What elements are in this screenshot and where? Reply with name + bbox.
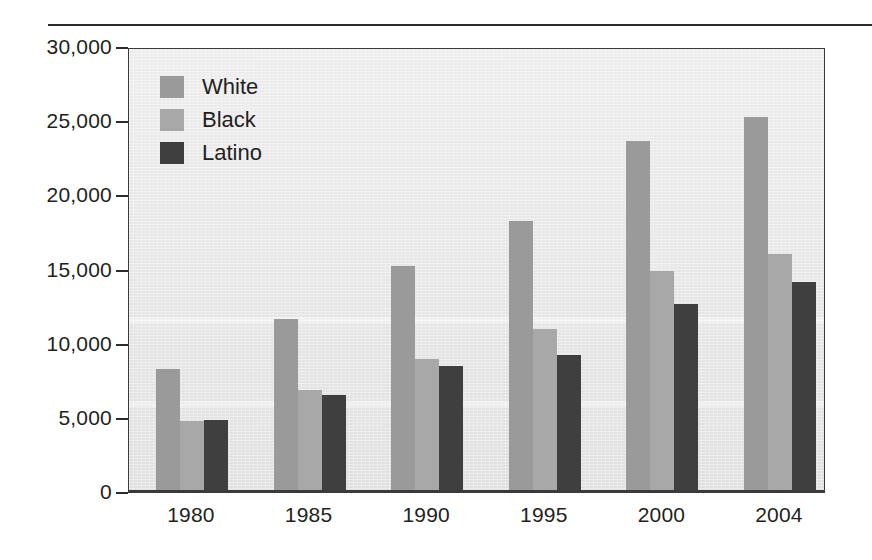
y-axis-tick — [116, 121, 128, 123]
x-axis-tick-label-1990: 1990 — [366, 503, 486, 527]
legend-swatch-black — [160, 109, 184, 131]
bar-latino-1990 — [439, 366, 463, 491]
bar-white-1980 — [156, 369, 180, 491]
bar-white-1990 — [391, 266, 415, 491]
x-axis-tick-label-1980: 1980 — [131, 503, 251, 527]
y-axis-tick-label: 5,000 — [4, 406, 112, 430]
bar-white-2004 — [744, 117, 768, 491]
bar-latino-2000 — [674, 304, 698, 491]
legend-swatch-white — [160, 76, 184, 98]
y-axis-tick — [116, 270, 128, 272]
bar-black-1985 — [298, 390, 322, 491]
bar-black-1980 — [180, 421, 204, 491]
bar-latino-2004 — [792, 282, 816, 491]
y-axis-tick-label: 20,000 — [4, 183, 112, 207]
chart-figure: 05,00010,00015,00020,00025,00030,000 198… — [0, 0, 872, 560]
bar-latino-1995 — [557, 355, 581, 491]
bar-white-1985 — [274, 319, 298, 491]
y-axis-tick — [116, 344, 128, 346]
y-axis-tick — [116, 195, 128, 197]
legend-item-black[interactable]: Black — [160, 103, 262, 136]
y-axis-tick — [116, 492, 128, 494]
bar-white-1995 — [509, 221, 533, 491]
x-axis-tick-label-1985: 1985 — [249, 503, 369, 527]
bar-black-1990 — [415, 359, 439, 491]
y-axis-tick-label: 25,000 — [4, 109, 112, 133]
y-axis-tick-label: 10,000 — [4, 332, 112, 356]
chart-legend: WhiteBlackLatino — [160, 70, 262, 169]
y-axis-tick — [116, 418, 128, 420]
x-axis-tick-label-1995: 1995 — [484, 503, 604, 527]
bar-black-2004 — [768, 254, 792, 491]
legend-swatch-latino — [160, 142, 184, 164]
bar-latino-1985 — [322, 395, 346, 491]
legend-label-black: Black — [202, 109, 256, 131]
bar-white-2000 — [626, 141, 650, 491]
y-axis-tick-label: 30,000 — [4, 35, 112, 59]
legend-label-latino: Latino — [202, 142, 262, 164]
y-axis-tick-label: 15,000 — [4, 258, 112, 282]
legend-item-latino[interactable]: Latino — [160, 136, 262, 169]
bar-latino-1980 — [204, 420, 228, 491]
x-axis-baseline — [129, 490, 824, 492]
legend-item-white[interactable]: White — [160, 70, 262, 103]
y-axis-tick-label: 0 — [4, 480, 112, 504]
x-axis-tick-label-2000: 2000 — [601, 503, 721, 527]
top-divider-rule — [48, 24, 872, 26]
y-axis-tick — [116, 47, 128, 49]
x-axis-tick-label-2004: 2004 — [719, 503, 839, 527]
bar-black-1995 — [533, 329, 557, 491]
legend-label-white: White — [202, 76, 258, 98]
bar-black-2000 — [650, 271, 674, 491]
